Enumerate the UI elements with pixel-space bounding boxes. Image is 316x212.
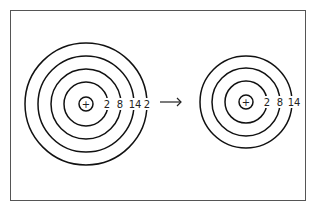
shell-label: 2 <box>144 99 150 110</box>
atom-diagram: + 2 8 14 2 + 2 8 14 <box>0 0 316 212</box>
shell-label: 14 <box>129 99 142 110</box>
nucleus-plus-icon: + <box>242 97 250 108</box>
arrow-right-icon <box>160 98 181 106</box>
shell-label: 2 <box>264 97 270 108</box>
shell-label: 8 <box>117 99 123 110</box>
shell-label: 2 <box>104 99 110 110</box>
shell-label: 14 <box>288 97 301 108</box>
shell-label: 8 <box>277 97 283 108</box>
nucleus-plus-icon: + <box>82 99 90 110</box>
